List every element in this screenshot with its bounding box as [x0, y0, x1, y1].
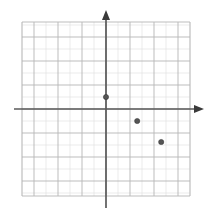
data-point-c: [159, 139, 164, 144]
data-point-a: [103, 94, 108, 99]
x-axis-arrowhead: [194, 105, 204, 113]
coordinate-plane-figure: [0, 0, 209, 220]
axes: [14, 10, 204, 208]
data-points: [103, 94, 163, 144]
data-point-b: [135, 118, 140, 123]
y-axis-arrowhead: [102, 10, 110, 20]
plot-canvas: [0, 0, 209, 220]
